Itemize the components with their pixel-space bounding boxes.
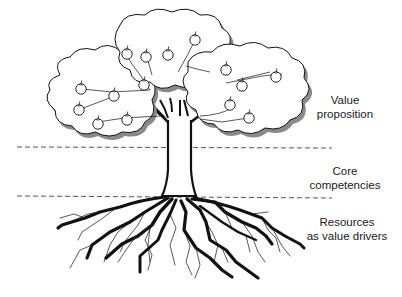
label-value-proposition: Value proposition xyxy=(290,93,400,121)
label-resources: Resources as value drivers xyxy=(288,215,402,243)
tree-diagram xyxy=(0,0,402,297)
label-resources-line1: Resources xyxy=(288,215,402,229)
label-value-proposition-line1: Value xyxy=(290,93,400,107)
label-value-proposition-line2: proposition xyxy=(290,107,400,121)
tree-roots xyxy=(58,197,304,278)
label-core-competencies: Core competencies xyxy=(290,164,400,192)
label-core-competencies-line2: competencies xyxy=(290,178,400,192)
label-resources-line2: as value drivers xyxy=(288,229,402,243)
label-core-competencies-line1: Core xyxy=(290,164,400,178)
